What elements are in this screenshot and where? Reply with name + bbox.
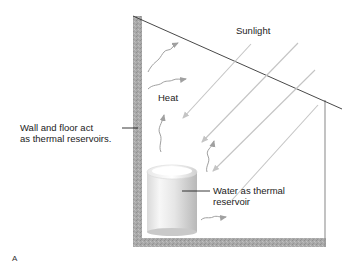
water-cylinder (147, 165, 197, 236)
heat-arrow-middle (148, 79, 186, 89)
panel-label: A (12, 253, 17, 262)
water-label-line2: reservoir (213, 196, 285, 207)
wall-floor-label-line1: Wall and floor act (20, 122, 111, 133)
left-wall (133, 16, 142, 247)
sunlight-arrows (183, 43, 318, 200)
sunlight-arrow-3 (213, 70, 315, 171)
heat-arrow-floor (201, 216, 226, 220)
heat-arrow-upper (148, 43, 178, 72)
sunlight-label: Sunlight (236, 25, 270, 36)
heat-arrow-from-cylinder (159, 115, 164, 152)
water-label-line1: Water as thermal (213, 185, 285, 196)
floor (133, 238, 326, 247)
water-reservoir-label: Water as thermal reservoir (213, 185, 285, 207)
heat-label: Heat (158, 92, 178, 103)
wall-floor-label: Wall and floor act as thermal reservoirs… (20, 122, 111, 144)
sunlight-arrow-2 (202, 43, 298, 142)
sunlight-arrow-1 (183, 44, 251, 118)
heat-arrow-right (207, 141, 214, 172)
wall-floor-label-line2: as thermal reservoirs. (20, 133, 111, 144)
